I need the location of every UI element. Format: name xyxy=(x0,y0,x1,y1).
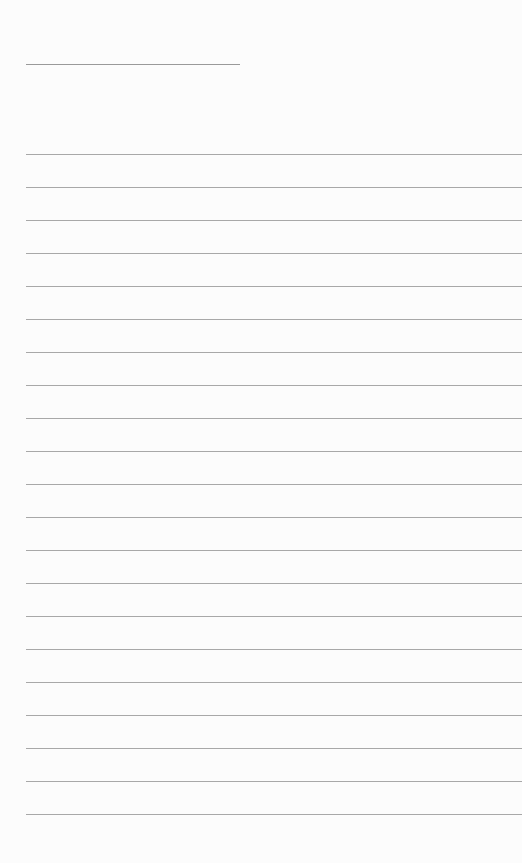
ruled-line xyxy=(26,187,522,188)
ruled-line xyxy=(26,352,522,353)
ruled-line xyxy=(26,682,522,683)
ruled-line xyxy=(26,781,522,782)
ruled-line xyxy=(26,451,522,452)
ruled-line xyxy=(26,220,522,221)
ruled-line xyxy=(26,286,522,287)
lined-paper-page xyxy=(0,0,522,863)
name-line xyxy=(26,64,240,65)
ruled-line xyxy=(26,319,522,320)
ruled-line xyxy=(26,649,522,650)
ruled-line xyxy=(26,418,522,419)
ruled-line xyxy=(26,583,522,584)
ruled-line xyxy=(26,814,522,815)
ruled-line xyxy=(26,550,522,551)
ruled-line xyxy=(26,253,522,254)
ruled-line xyxy=(26,616,522,617)
ruled-line xyxy=(26,715,522,716)
ruled-line xyxy=(26,748,522,749)
ruled-line xyxy=(26,385,522,386)
ruled-line xyxy=(26,154,522,155)
ruled-line xyxy=(26,484,522,485)
ruled-line xyxy=(26,517,522,518)
